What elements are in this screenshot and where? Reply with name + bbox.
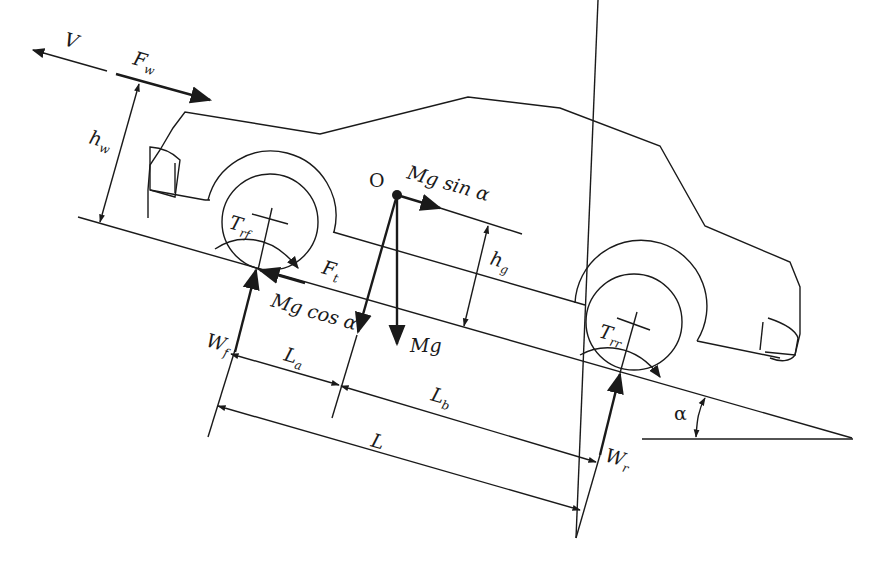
rear-load-arrow bbox=[600, 374, 620, 455]
label-velocity: V bbox=[62, 28, 83, 54]
traction-force-arrow bbox=[260, 270, 305, 283]
label-wind-height: hw bbox=[86, 126, 116, 157]
rear-wheel-axle-v bbox=[620, 312, 637, 373]
dimension-wheelbase bbox=[218, 406, 580, 510]
rear-load-line bbox=[576, 455, 600, 538]
slope-angle-arc bbox=[696, 398, 705, 437]
label-mg-sin: Mg sin α bbox=[404, 160, 493, 205]
label-wheelbase: L bbox=[368, 428, 387, 453]
vehicle-incline-diagram: V Fw hw O Mg sin α Trf Ft Mg cos α Mg hg… bbox=[0, 0, 876, 567]
svg-text:hw: hw bbox=[86, 126, 116, 157]
rear-wheel-arch bbox=[575, 240, 707, 341]
road-surface-line bbox=[78, 217, 852, 438]
svg-text:Lb: Lb bbox=[427, 382, 455, 413]
mg-cos-extension bbox=[332, 335, 357, 418]
rear-lamp-line bbox=[760, 322, 763, 350]
svg-text:O: O bbox=[369, 169, 385, 191]
wind-force-arrow bbox=[116, 74, 210, 100]
rear-wheel-axle-h bbox=[617, 318, 650, 330]
label-cg-point: O bbox=[369, 169, 385, 191]
mg-cos-arrow bbox=[358, 195, 397, 332]
mg-sin-arrow bbox=[397, 195, 440, 208]
svg-text:L: L bbox=[368, 428, 387, 453]
svg-text:Mg sin α: Mg sin α bbox=[404, 160, 493, 205]
svg-text:V: V bbox=[62, 28, 83, 54]
label-wind-force: Fw bbox=[129, 46, 160, 78]
svg-text:Trr: Trr bbox=[596, 320, 628, 352]
label-front-load: Wf bbox=[203, 329, 236, 361]
label-front-torque: Trf bbox=[226, 211, 258, 243]
svg-text:Trf: Trf bbox=[226, 211, 258, 243]
cg-parallel-line bbox=[440, 208, 522, 234]
svg-text:Wr: Wr bbox=[602, 444, 635, 476]
svg-text:Mg cos α: Mg cos α bbox=[268, 288, 360, 334]
label-rear-torque: Trr bbox=[596, 320, 628, 352]
velocity-arrow bbox=[33, 50, 107, 71]
svg-text:Wf: Wf bbox=[203, 329, 236, 361]
label-dist-b: Lb bbox=[427, 382, 455, 413]
front-load-extension bbox=[208, 350, 235, 437]
label-rear-load: Wr bbox=[602, 444, 635, 476]
label-mg-cos: Mg cos α bbox=[268, 288, 360, 334]
label-cg-height: hg bbox=[487, 247, 514, 278]
svg-text:Ft: Ft bbox=[318, 255, 344, 285]
svg-text:Fw: Fw bbox=[129, 46, 160, 78]
svg-text:hg: hg bbox=[487, 247, 514, 278]
rear-lower-body bbox=[697, 341, 780, 358]
label-traction-force: Ft bbox=[318, 255, 344, 285]
label-mg: Mg bbox=[409, 334, 442, 356]
svg-text:Mg: Mg bbox=[409, 334, 442, 356]
svg-text:α: α bbox=[674, 402, 687, 424]
label-slope-angle: α bbox=[674, 402, 687, 424]
front-load-arrow bbox=[235, 270, 256, 352]
